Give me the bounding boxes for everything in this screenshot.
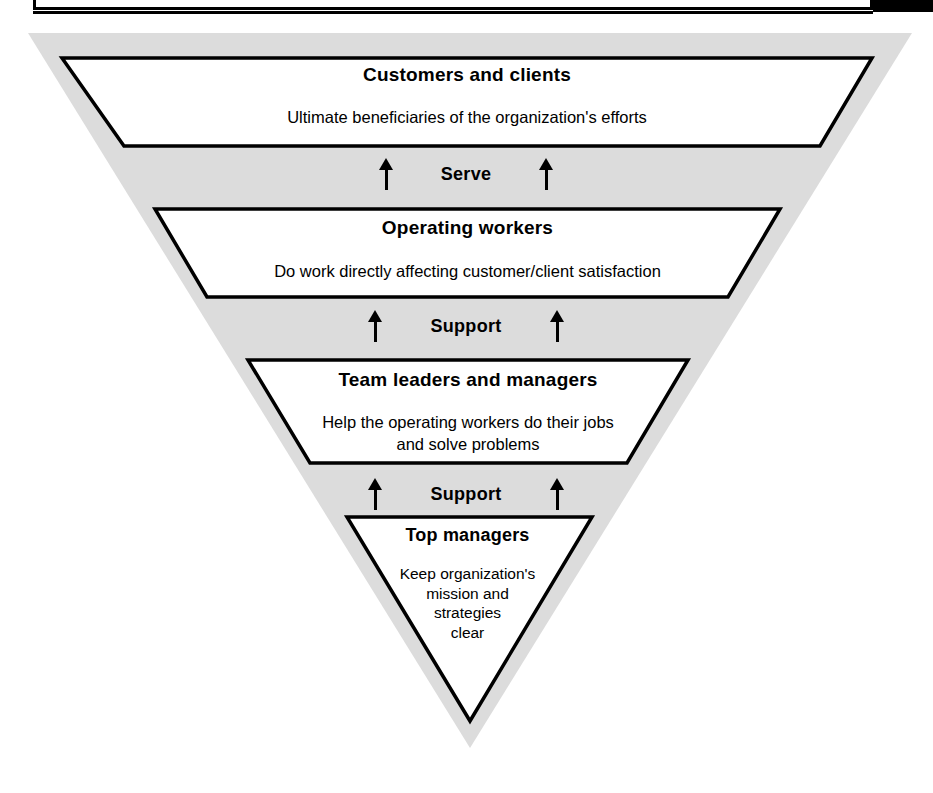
tier-body-operating-workers: Do work directly affecting customer/clie…	[155, 261, 780, 283]
arrow-up-icon	[368, 310, 382, 342]
tier-text-customers-and-clients: Customers and clients Ultimate beneficia…	[62, 62, 872, 129]
arrow-up-icon	[379, 158, 393, 190]
connector-support-2: Support	[366, 477, 566, 511]
tier-text-team-leaders-and-managers: Team leaders and managers Help the opera…	[248, 367, 688, 456]
arrow-up-icon	[368, 478, 382, 510]
figure-canvas: THE 'UPSIDE-DOWN PYRAMID' VIEW OF ORGANI…	[0, 0, 933, 793]
connector-support-1: Support	[366, 309, 566, 343]
upside-down-pyramid-diagram: Customers and clients Ultimate beneficia…	[0, 0, 933, 793]
connector-label-support-1: Support	[430, 316, 501, 337]
tier-heading-top-managers: Top managers	[350, 524, 585, 548]
tier-heading-team-leaders-and-managers: Team leaders and managers	[248, 367, 688, 392]
connector-serve: Serve	[366, 157, 566, 191]
tier-body-team-leaders-and-managers-line-2: and solve problems	[248, 434, 688, 456]
tier-body-team-leaders-and-managers-line-1: Help the operating workers do their jobs	[248, 412, 688, 434]
arrow-up-icon	[550, 478, 564, 510]
tier-body-top-managers-line-1: Keep organization's	[350, 564, 585, 584]
connector-label-support-2: Support	[430, 484, 501, 505]
tier-heading-operating-workers: Operating workers	[155, 215, 780, 240]
connector-label-serve: Serve	[441, 164, 492, 185]
tier-body-top-managers-line-4: clear	[350, 623, 585, 643]
tier-text-top-managers: Top managers Keep organization's mission…	[350, 524, 585, 643]
tier-body-customers-and-clients: Ultimate beneficiaries of the organizati…	[62, 107, 872, 129]
tier-body-top-managers-line-2: mission and	[350, 584, 585, 604]
tier-heading-customers-and-clients: Customers and clients	[62, 62, 872, 87]
arrow-up-icon	[550, 310, 564, 342]
arrow-up-icon	[539, 158, 553, 190]
tier-text-operating-workers: Operating workers Do work directly affec…	[155, 215, 780, 283]
tier-body-top-managers-line-3: strategies	[350, 603, 585, 623]
